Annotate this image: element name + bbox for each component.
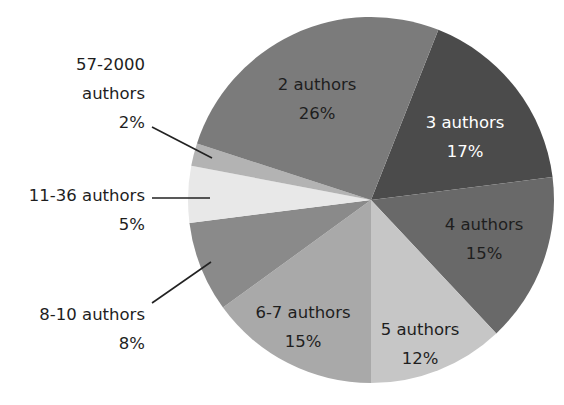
pie-chart: 3 authors17%4 authors15%5 authors12%6-7 … (0, 0, 564, 405)
slice-label: 57-2000authors2% (76, 55, 145, 132)
slice-label: 11-36 authors5% (29, 186, 145, 234)
leader-line (152, 262, 211, 303)
slice-label: 8-10 authors8% (39, 305, 145, 353)
pie-slices (188, 17, 554, 383)
